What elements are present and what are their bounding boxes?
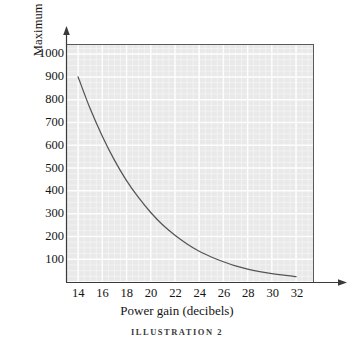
x-tick-label: 18 (114, 285, 140, 301)
y-axis-arrow-icon (63, 26, 70, 35)
y-tick-label: 600 (45, 138, 64, 152)
plot-panel (66, 44, 314, 282)
x-tick-label: 32 (284, 285, 310, 301)
x-tick-label: 30 (260, 285, 286, 301)
y-tick-label: 800 (45, 92, 64, 106)
x-tick-label: 28 (235, 285, 261, 301)
y-tick-label: 900 (45, 69, 64, 83)
x-tick-label: 26 (211, 285, 237, 301)
y-tick-label: 200 (45, 229, 64, 243)
x-tick-label: 22 (162, 285, 188, 301)
x-axis-tick-labels: 14161820222426283032 (0, 285, 354, 301)
x-tick-label: 14 (65, 285, 91, 301)
y-tick-label: 500 (45, 161, 64, 175)
y-tick-label: 1000 (39, 46, 64, 60)
y-tick-label: 100 (45, 252, 64, 266)
x-tick-label: 24 (187, 285, 213, 301)
y-axis-tick-labels: 1002003004005006007008009001000 (34, 36, 64, 282)
y-axis-title-wrap: Maximum power output (milliwatts) (11, 30, 33, 280)
x-tick-label: 16 (89, 285, 115, 301)
series-maximum-power-output (78, 77, 296, 277)
x-tick-label: 20 (138, 285, 164, 301)
y-tick-label: 300 (45, 206, 64, 220)
y-tick-label: 400 (45, 183, 64, 197)
figure-illustration-2: Maximum power output (milliwatts) 100200… (0, 0, 354, 347)
x-axis-title: Power gain (decibels) (0, 303, 354, 319)
y-tick-label: 700 (45, 115, 64, 129)
data-curve-layer (66, 45, 313, 282)
figure-caption: ILLUSTRATION 2 (0, 327, 354, 337)
